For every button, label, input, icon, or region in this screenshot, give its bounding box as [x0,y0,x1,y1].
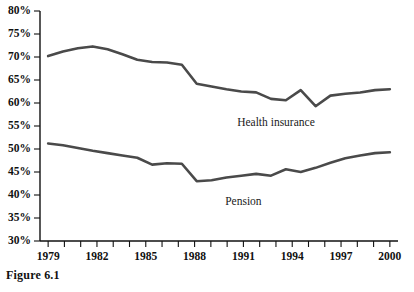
line-chart: 30%35%40%45%50%55%60%65%70%75%80% 197919… [0,0,414,292]
series-annotations: Health insurancePension [225,116,315,207]
y-axis-ticks [34,11,40,241]
y-tick-label: 75% [8,27,31,39]
x-tick-label: 1979 [37,250,60,262]
y-tick-label: 70% [8,50,31,62]
x-tick-label: 1997 [330,250,353,262]
series-lines [48,46,390,181]
x-axis-ticks [48,241,390,247]
series-label-pension: Pension [225,195,262,207]
x-tick-label: 1991 [232,250,255,262]
series-label-health-insurance: Health insurance [237,116,315,128]
y-axis-tick-labels: 30%35%40%45%50%55%60%65%70%75%80% [8,4,31,246]
y-tick-label: 60% [8,96,31,108]
y-tick-label: 50% [8,142,31,154]
x-tick-label: 1985 [134,250,157,262]
x-axis-tick-labels: 19791982198519881991199419972000 [37,250,402,262]
series-line-pension [48,143,390,181]
x-tick-label: 1994 [281,250,304,262]
y-tick-label: 35% [8,211,31,223]
y-tick-label: 45% [8,165,31,177]
y-tick-label: 55% [8,119,31,131]
series-line-health-insurance [48,46,390,106]
y-tick-label: 80% [8,4,31,16]
x-tick-label: 2000 [378,250,401,262]
figure-caption: Figure 6.1 [6,268,60,283]
y-tick-label: 65% [8,73,31,85]
x-tick-label: 1988 [183,250,206,262]
figure-container: 30%35%40%45%50%55%60%65%70%75%80% 197919… [0,0,414,292]
y-tick-label: 30% [8,234,31,246]
x-tick-label: 1982 [85,250,108,262]
y-tick-label: 40% [8,188,31,200]
